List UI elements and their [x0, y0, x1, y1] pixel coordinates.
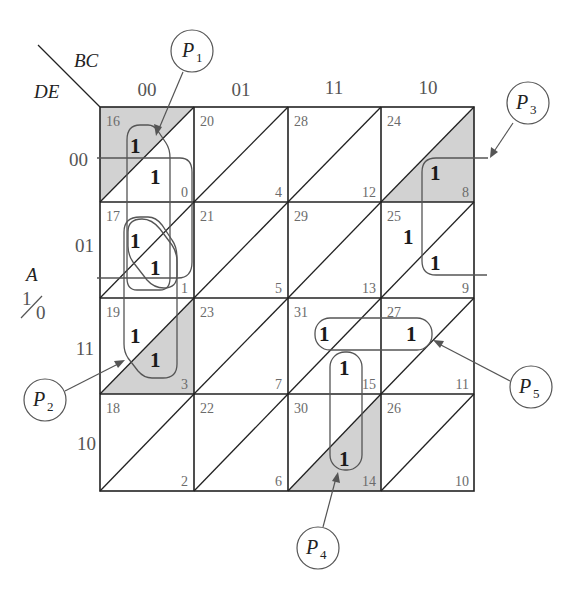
minterm-22: 22 [200, 401, 214, 416]
minterm-12: 12 [362, 185, 376, 200]
arrowhead-p2 [114, 360, 125, 368]
karnaugh-map-diagram: BC DE 00 01 11 10 00 01 11 10 A 1 0 [0, 0, 579, 592]
callout-sub-p3: 3 [530, 102, 537, 117]
arrowhead-p5 [433, 340, 444, 348]
minterm-1: 1 [181, 281, 188, 296]
minterm-6: 6 [275, 474, 282, 489]
arrowhead-p3 [490, 147, 498, 158]
callout-label-p4: P [305, 536, 318, 558]
col-header-10: 10 [419, 77, 438, 98]
callout-sub-p5: 5 [533, 386, 540, 401]
callout-label-p5: P [518, 375, 531, 397]
minterm-15: 15 [362, 377, 376, 392]
arrow-p3 [493, 123, 513, 153]
callout-p5: P 5 [510, 366, 552, 408]
a-zero-label: 0 [36, 302, 46, 323]
minterm-9: 9 [462, 281, 469, 296]
row-headers: 00 01 11 10 [69, 149, 96, 454]
col-header-11: 11 [325, 77, 343, 98]
callout-p4: P 4 [297, 527, 339, 569]
one-27: 1 [406, 322, 417, 346]
minterm-21: 21 [200, 209, 214, 224]
one-19: 1 [130, 324, 141, 348]
minterm-3: 3 [181, 377, 188, 392]
one-15: 1 [339, 356, 350, 380]
one-25: 1 [403, 225, 414, 249]
callout-sub-p1: 1 [196, 50, 203, 65]
a-variable-label: A [24, 264, 38, 285]
one-0: 1 [150, 165, 161, 189]
one-16: 1 [130, 134, 141, 158]
callout-label-p2: P [32, 388, 45, 410]
minterm-5: 5 [275, 281, 282, 296]
callout-sub-p4: 4 [320, 547, 327, 562]
minterm-11: 11 [456, 377, 469, 392]
minterm-7: 7 [275, 377, 282, 392]
minterm-17: 17 [106, 209, 120, 224]
callout-label-p1: P [181, 39, 194, 61]
callout-label-p3: P [515, 91, 528, 113]
minterm-31: 31 [294, 305, 308, 320]
minterm-13: 13 [362, 281, 376, 296]
minterm-20: 20 [200, 114, 214, 129]
row-variable-label: DE [33, 81, 60, 102]
a-one-label: 1 [22, 288, 32, 309]
minterm-2: 2 [181, 474, 188, 489]
minterm-19: 19 [106, 305, 120, 320]
minterm-28: 28 [294, 114, 308, 129]
minterm-30: 30 [294, 401, 308, 416]
one-14: 1 [339, 447, 350, 471]
col-header-00: 00 [138, 79, 157, 100]
minterm-10: 10 [455, 474, 469, 489]
row-header-01: 01 [75, 235, 94, 256]
minterm-25: 25 [387, 209, 401, 224]
one-31: 1 [319, 322, 330, 346]
callout-sub-p2: 2 [47, 399, 54, 414]
minterm-14: 14 [362, 474, 376, 489]
callout-p3: P 3 [507, 82, 549, 124]
column-headers: 00 01 11 10 [138, 77, 438, 100]
one-17: 1 [130, 229, 141, 253]
minterm-0: 0 [181, 185, 188, 200]
one-1: 1 [150, 256, 161, 280]
callout-p1: P 1 [171, 30, 213, 72]
minterm-24: 24 [387, 114, 401, 129]
one-9: 1 [430, 251, 441, 275]
callout-p2: P 2 [24, 379, 66, 421]
row-header-11: 11 [76, 338, 94, 359]
col-header-01: 01 [232, 79, 251, 100]
row-header-10: 10 [77, 433, 96, 454]
col-variable-label: BC [74, 50, 99, 71]
minterm-8: 8 [462, 185, 469, 200]
minterm-23: 23 [200, 305, 214, 320]
row-header-00: 00 [69, 149, 88, 170]
one-3: 1 [150, 348, 161, 372]
one-8: 1 [430, 161, 441, 185]
minterm-4: 4 [275, 185, 282, 200]
minterm-26: 26 [387, 401, 401, 416]
minterm-29: 29 [294, 209, 308, 224]
minterm-16: 16 [106, 114, 120, 129]
a-variable-legend: A 1 0 [21, 264, 46, 323]
minterm-18: 18 [106, 401, 120, 416]
